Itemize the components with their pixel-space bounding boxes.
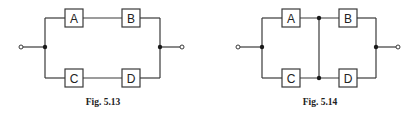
figure-5-13: A B C D	[19, 9, 184, 87]
block-a-label: A	[70, 12, 78, 26]
junction-dot-icon	[317, 16, 321, 20]
output-terminal-icon	[396, 45, 400, 49]
diagram-canvas: A B C D A B C D	[0, 0, 416, 118]
block-c-label: C	[287, 72, 296, 86]
block-b-label: B	[127, 12, 135, 26]
figure-caption: Fig. 5.13	[86, 97, 121, 107]
block-a-label: A	[287, 12, 295, 26]
output-terminal-icon	[180, 45, 184, 49]
block-c-label: C	[70, 72, 79, 86]
input-terminal-icon	[19, 45, 23, 49]
block-d-label: D	[344, 72, 353, 86]
figure-5-14: A B C D	[236, 9, 400, 87]
block-b-label: B	[344, 12, 352, 26]
block-d-label: D	[127, 72, 136, 86]
figure-caption: Fig. 5.14	[303, 97, 338, 107]
junction-dot-icon	[158, 45, 162, 49]
junction-dot-icon	[43, 45, 47, 49]
junction-dot-icon	[374, 45, 378, 49]
junction-dot-icon	[317, 76, 321, 80]
input-terminal-icon	[236, 45, 240, 49]
junction-dot-icon	[260, 45, 264, 49]
